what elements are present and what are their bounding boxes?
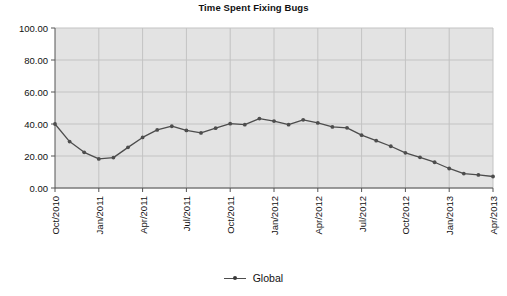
legend-label: Global (253, 273, 283, 285)
data-point-marker (82, 150, 86, 154)
data-point-marker (155, 128, 159, 132)
legend-item-global[interactable]: Global (224, 272, 283, 284)
data-point-marker (258, 117, 262, 121)
data-point-marker (316, 121, 320, 125)
data-point-marker (331, 125, 335, 129)
y-axis-tick-label: 100.00 (19, 23, 48, 34)
data-point-marker (477, 173, 481, 177)
data-point-marker (418, 155, 422, 159)
data-point-marker (112, 156, 116, 160)
data-point-marker (243, 123, 247, 127)
data-point-marker (97, 157, 101, 161)
data-point-marker (68, 140, 72, 144)
x-axis-tick-label: Apr/2013 (488, 196, 499, 235)
data-point-marker (404, 151, 408, 155)
data-point-marker (141, 136, 145, 140)
data-point-marker (491, 175, 495, 179)
y-axis-tick-label: 60.00 (24, 87, 48, 98)
chart-legend: Global (0, 272, 507, 285)
y-axis-tick-label: 80.00 (24, 55, 48, 66)
legend-line-marker-icon (224, 274, 246, 284)
x-axis-tick-label: Jul/2011 (181, 196, 192, 231)
data-point-marker (170, 124, 174, 128)
data-point-marker (301, 118, 305, 122)
x-axis-tick-label: Oct/2010 (50, 196, 61, 235)
plot-area-wrapper: 0.0020.0040.0060.0080.00100.00Oct/2010Ja… (0, 0, 507, 296)
data-point-marker (214, 126, 218, 130)
x-axis-tick-label: Apr/2011 (138, 196, 149, 234)
data-point-marker (345, 126, 349, 130)
data-point-marker (433, 160, 437, 164)
y-axis-tick-label: 40.00 (24, 119, 48, 130)
chart-container: Time Spent Fixing Bugs 0.0020.0040.0060.… (0, 0, 507, 296)
y-axis-tick-label: 20.00 (24, 151, 48, 162)
data-point-marker (126, 145, 130, 149)
x-axis-tick-label: Jan/2011 (94, 196, 105, 234)
data-point-marker (462, 172, 466, 176)
data-point-marker (185, 129, 189, 133)
data-point-marker (53, 122, 57, 126)
x-axis-tick-label: Jan/2012 (269, 196, 280, 235)
data-point-marker (272, 119, 276, 123)
line-chart-svg: 0.0020.0040.0060.0080.00100.00Oct/2010Ja… (0, 0, 507, 296)
x-axis-tick-label: Apr/2012 (313, 196, 324, 235)
data-point-marker (447, 167, 451, 171)
x-axis-tick-label: Jan/2013 (444, 196, 455, 235)
data-point-marker (374, 139, 378, 143)
y-axis-tick-label: 0.00 (30, 183, 49, 194)
x-axis-tick-label: Oct/2012 (400, 196, 411, 235)
x-axis-tick-label: Jul/2012 (357, 196, 368, 232)
data-point-marker (360, 133, 364, 137)
data-point-marker (228, 122, 232, 126)
data-point-marker (199, 131, 203, 135)
x-axis-tick-label: Oct/2011 (225, 196, 236, 234)
data-point-marker (287, 123, 291, 127)
data-point-marker (389, 144, 393, 148)
